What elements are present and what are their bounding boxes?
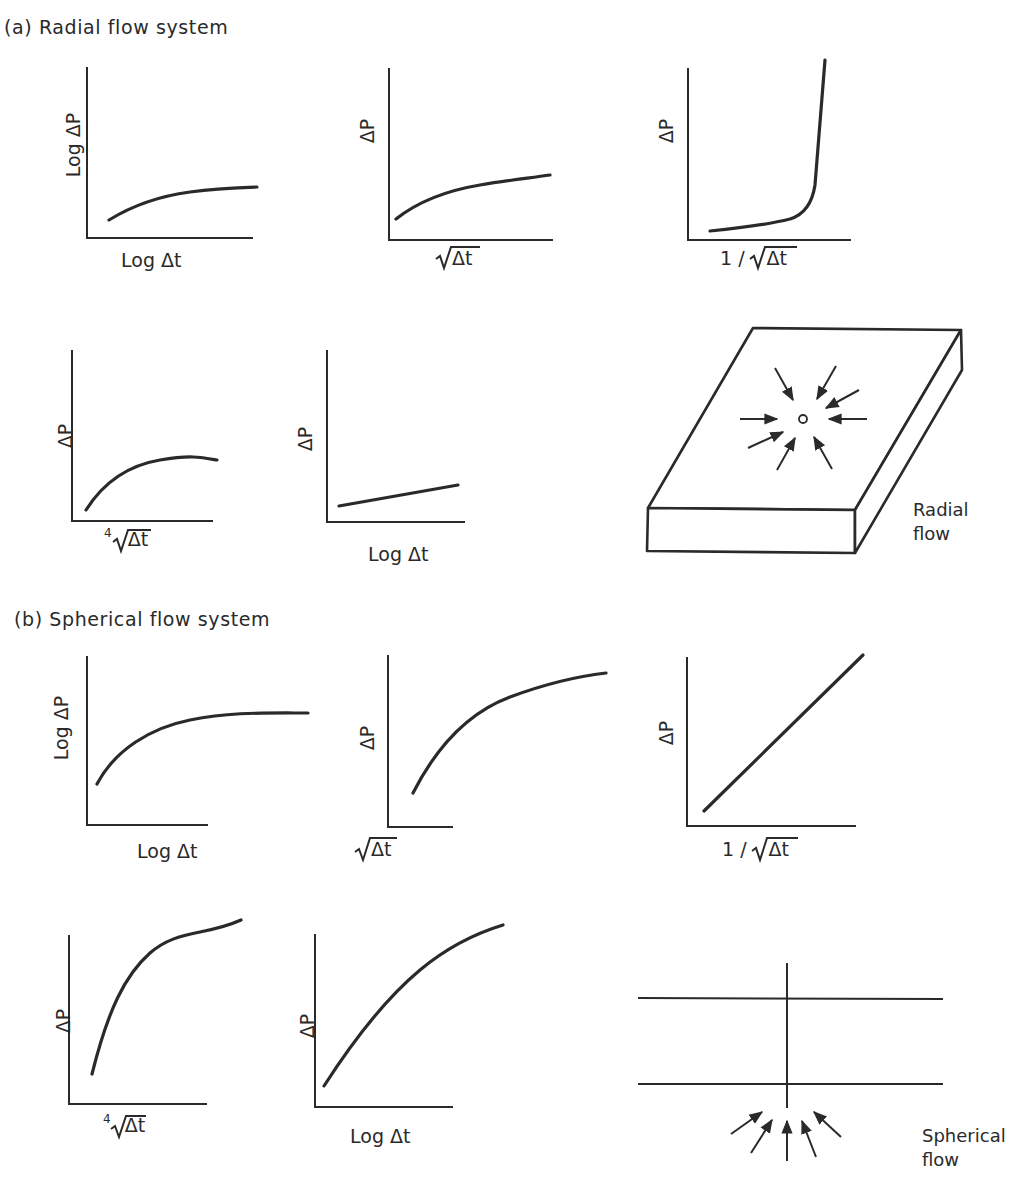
plot-a3-xlabel-prefix: 1 /: [720, 247, 745, 269]
plot-b4-xlabel-radicand: Δt: [125, 1114, 145, 1136]
plot-a1: [87, 67, 257, 238]
plot-b3-xlabel-prefix: 1 /: [722, 838, 747, 860]
plot-a1-curve: [109, 187, 257, 220]
plot-a3-curve: [710, 60, 825, 231]
plot-a1-xlabel: Log Δt: [121, 249, 181, 271]
plot-b1: [87, 656, 308, 825]
plot-a4-axes: [72, 350, 213, 521]
plot-a1-ylabel: Log ΔP: [62, 100, 84, 190]
radical-signs: [111, 247, 798, 1137]
arrow-icon: [751, 1120, 772, 1153]
spherical-flow-diagram: [638, 963, 943, 1161]
plot-b1-curve: [97, 713, 308, 784]
plot-a2-curve: [396, 175, 550, 219]
plot-a2: [389, 68, 553, 240]
spherical-caption-line1: Spherical: [922, 1124, 1006, 1148]
arrow-icon: [731, 1112, 762, 1134]
radial-caption-line1: Radial: [913, 498, 969, 522]
plot-b2-ylabel: ΔP: [356, 713, 378, 763]
plot-b1-ylabel: Log ΔP: [50, 683, 72, 773]
plot-a5-ylabel: ΔP: [294, 414, 316, 464]
spherical-flow-caption: Spherical flow: [922, 1124, 1006, 1172]
spherical-flow-arrows: [731, 1112, 841, 1161]
plot-b2: [388, 655, 606, 827]
plot-b3: [687, 655, 863, 826]
plot-a1-axes: [87, 67, 253, 238]
plot-b1-xlabel: Log Δt: [137, 840, 197, 862]
plot-a3-ylabel: ΔP: [655, 106, 677, 156]
plot-b5: [315, 925, 503, 1107]
plot-a4: [72, 350, 217, 521]
plot-a3-axes: [688, 68, 851, 240]
plot-b2-xlabel: Δt: [371, 838, 391, 860]
arrow-icon: [802, 1121, 816, 1157]
plot-a3-xlabel: 1 / Δt: [720, 247, 787, 269]
plot-a4-xlabel-index: 4: [104, 526, 112, 540]
plot-b2-xlabel-radicand: Δt: [371, 838, 391, 860]
spherical-caption-line2: flow: [922, 1148, 1006, 1172]
plot-b4: [69, 920, 241, 1104]
upper-boundary-line: [638, 998, 943, 999]
plot-b4-ylabel: ΔP: [52, 996, 74, 1046]
plot-a3-xlabel-radicand: Δt: [767, 247, 787, 269]
plot-b4-xlabel-index: 4: [103, 1112, 111, 1126]
plot-b5-ylabel: ΔP: [296, 1001, 318, 1051]
plot-a2-xlabel: Δt: [452, 247, 472, 269]
plot-a4-curve: [86, 457, 217, 510]
plot-b1-axes: [87, 656, 208, 825]
plot-a2-xlabel-radicand: Δt: [452, 247, 472, 269]
plot-b3-curve: [704, 655, 863, 811]
slab-front-face: [647, 508, 855, 553]
plot-a5-curve: [339, 485, 458, 506]
plot-b3-xlabel-radicand: Δt: [769, 838, 789, 860]
plot-b4-axes: [69, 935, 207, 1104]
arrow-icon: [814, 1112, 841, 1137]
wellbore-icon: [799, 415, 807, 423]
plot-a2-axes: [389, 68, 553, 240]
plot-b5-curve: [324, 925, 503, 1086]
figure-canvas: [0, 0, 1032, 1192]
plot-b5-xlabel: Log Δt: [350, 1125, 410, 1147]
plot-b2-axes: [388, 655, 453, 827]
plot-a4-xlabel-radicand: Δt: [128, 528, 148, 550]
radial-flow-caption: Radial flow: [913, 498, 969, 546]
plot-a5: [327, 350, 465, 522]
plot-b4-xlabel: 4 Δt: [103, 1114, 145, 1136]
plot-a5-xlabel: Log Δt: [368, 543, 428, 565]
plot-b2-curve: [413, 673, 606, 793]
plot-b3-xlabel: 1 / Δt: [722, 838, 789, 860]
radial-caption-line2: flow: [913, 522, 969, 546]
plot-a4-xlabel: 4 Δt: [104, 528, 148, 550]
plot-b4-curve: [92, 920, 241, 1074]
plot-a4-ylabel: ΔP: [54, 411, 76, 461]
plot-b3-ylabel: ΔP: [655, 708, 677, 758]
plot-a3: [688, 60, 851, 240]
plot-a2-ylabel: ΔP: [356, 106, 378, 156]
